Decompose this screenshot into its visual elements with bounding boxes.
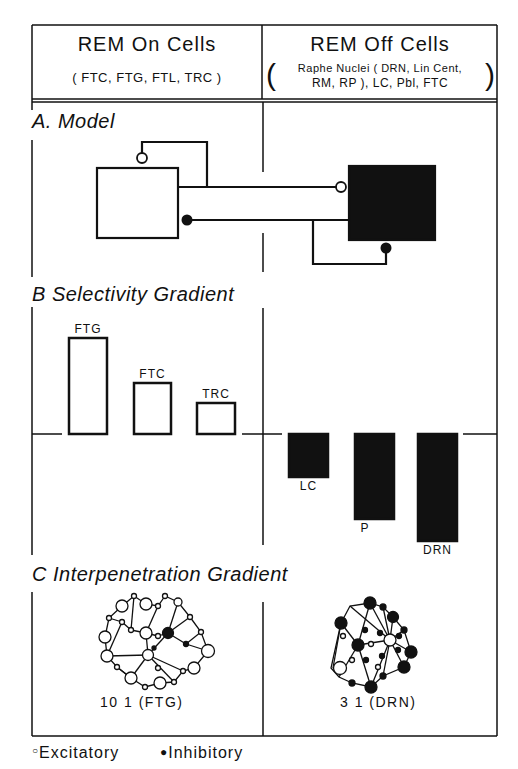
open-circle-icon: ○ [32, 745, 39, 756]
rem-off-cells-subtitle-2: RM, RP ), LC, Pbl, FTC [263, 76, 497, 90]
network-ftg [99, 594, 215, 690]
inhibitory-synapse-icon [381, 243, 392, 254]
rem-off-cells-subtitle-1: Raphe Nuclei ( DRN, Lin Cent, [263, 62, 497, 74]
rem-on-cell-box [97, 168, 178, 238]
rem-off-cells-title: REM Off Cells [263, 33, 497, 56]
network-drn [331, 597, 417, 693]
bar-ftg [69, 338, 107, 434]
bar-label-ftc: FTC [134, 367, 171, 381]
bar-lc [289, 434, 328, 477]
bar-label-ftg: FTG [69, 322, 107, 336]
filled-circle-icon: ● [160, 745, 168, 759]
bar-drn [418, 434, 457, 541]
excitatory-synapse-icon [137, 153, 147, 163]
network-ftg-label: 10 1 (FTG) [100, 694, 183, 710]
legend-inhibitory-label: Inhibitory [168, 744, 243, 761]
legend-excitatory-label: Excitatory [39, 744, 119, 761]
rem-on-cells-subtitle: ( FTC, FTG, FTL, TRC ) [32, 70, 262, 85]
section-c-title: C Interpenetration Gradient [32, 563, 288, 586]
bar-label-trc: TRC [197, 387, 235, 401]
legend-excitatory: ○Excitatory [32, 744, 119, 762]
bar-ftc [134, 383, 171, 434]
network-drn-label: 3 1 (DRN) [340, 694, 417, 710]
bar-trc [197, 403, 235, 434]
rem-off-cell-box [349, 166, 435, 240]
inhibitory-synapse-icon [182, 215, 193, 226]
section-a-title: A. Model [32, 110, 115, 133]
bar-p [355, 434, 394, 519]
rem-on-cells-title: REM On Cells [32, 33, 262, 56]
legend-inhibitory: ●Inhibitory [160, 744, 243, 762]
bar-label-p: P [355, 521, 375, 535]
excitatory-synapse-icon [336, 182, 346, 192]
bar-label-lc: LC [289, 479, 328, 493]
bar-label-drn: DRN [418, 543, 457, 557]
section-b-title: B Selectivity Gradient [32, 283, 234, 306]
